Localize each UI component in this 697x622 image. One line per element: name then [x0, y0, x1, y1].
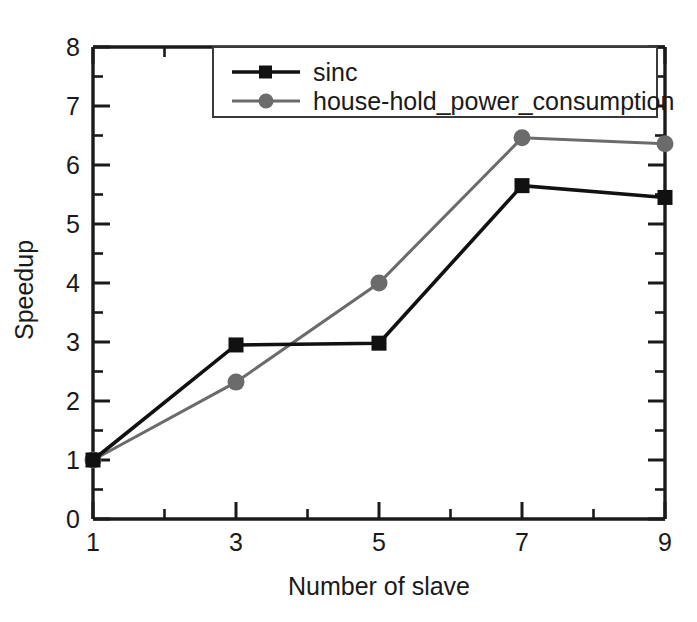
data-point-marker [657, 135, 674, 152]
series-house-hold-power-consumption [85, 129, 674, 468]
x-tick-label-7: 7 [515, 528, 529, 556]
y-tick-label-5: 5 [66, 210, 80, 238]
data-point-marker [229, 337, 244, 352]
series-sinc [86, 178, 673, 467]
y-tick-label-3: 3 [66, 328, 80, 356]
speedup-line-chart: 0 1 2 3 4 5 6 7 8 1 3 5 7 9 Number of sl… [0, 0, 697, 622]
data-point-marker [372, 336, 387, 351]
square-marker-icon [259, 66, 272, 79]
y-tick-label-0: 0 [66, 505, 80, 533]
y-tick-label-7: 7 [66, 92, 80, 120]
x-tick-label-1: 1 [86, 528, 100, 556]
x-tick-label-9: 9 [658, 528, 672, 556]
x-axis-title: Number of slave [288, 572, 470, 600]
y-tick-label-8: 8 [66, 33, 80, 61]
chart-page: 0 1 2 3 4 5 6 7 8 1 3 5 7 9 Number of sl… [0, 0, 697, 622]
y-axis-title: Speedup [10, 240, 38, 340]
legend[interactable]: sinc house-hold_power_consumption [213, 47, 674, 117]
data-point-marker [86, 453, 101, 468]
y-tick-label-1: 1 [66, 446, 80, 474]
x-tick-label-3: 3 [229, 528, 243, 556]
x-tick-label-5: 5 [372, 528, 386, 556]
data-point-marker [371, 275, 388, 292]
y-tick-label-2: 2 [66, 387, 80, 415]
y-tick-label-6: 6 [66, 151, 80, 179]
data-point-marker [228, 374, 245, 391]
data-point-marker [515, 178, 530, 193]
data-point-marker [658, 190, 673, 205]
data-point-marker [514, 129, 531, 146]
x-axis-major-ticks [93, 502, 665, 519]
legend-label-sinc: sinc [313, 58, 357, 86]
y-tick-label-4: 4 [66, 269, 80, 297]
circle-marker-icon [259, 94, 274, 109]
legend-label-house-hold-power-consumption: house-hold_power_consumption [313, 87, 674, 115]
